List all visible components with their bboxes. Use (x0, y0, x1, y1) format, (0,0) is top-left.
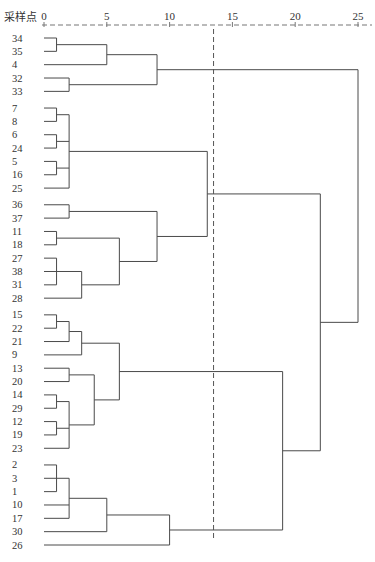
axis-title: 采样点 (4, 10, 37, 23)
leaf-label: 31 (12, 279, 23, 290)
leaf-label: 27 (12, 253, 23, 264)
leaf-label: 35 (12, 46, 23, 57)
leaf-label: 21 (12, 336, 23, 347)
leaf-label: 22 (12, 323, 23, 334)
x-tick-label: 20 (290, 10, 302, 22)
leaf-label: 9 (12, 349, 17, 360)
leaf-label: 30 (12, 526, 23, 537)
leaf-label: 36 (12, 199, 23, 210)
dendrogram-chart: 采样点0510152025343543233786245162536371118… (0, 0, 375, 562)
leaf-label: 15 (12, 309, 23, 320)
leaf-label: 2 (12, 459, 17, 470)
leaf-label: 10 (12, 499, 23, 510)
leaf-label: 32 (12, 73, 23, 84)
x-axis: 0510152025 (41, 10, 372, 27)
leaf-label: 34 (12, 33, 23, 44)
leaf-label: 3 (12, 473, 17, 484)
leaf-label: 38 (12, 266, 23, 277)
leaf-label: 17 (12, 513, 23, 524)
x-tick-label: 10 (164, 10, 176, 22)
leaf-label: 20 (12, 376, 23, 387)
leaf-label: 14 (12, 389, 23, 400)
leaf-label: 37 (12, 213, 23, 224)
leaf-label: 4 (12, 59, 18, 70)
dendrogram-svg: 采样点0510152025343543233786245162536371118… (0, 0, 375, 562)
leaf-label: 13 (12, 363, 23, 374)
leaf-label: 25 (12, 183, 23, 194)
dendrogram-links (44, 38, 358, 545)
leaf-label: 24 (12, 143, 23, 154)
leaf-label: 19 (12, 429, 23, 440)
leaf-label: 33 (12, 86, 23, 97)
leaf-label: 23 (12, 443, 23, 454)
x-tick-label: 15 (227, 10, 239, 22)
leaf-label: 26 (12, 540, 23, 551)
leaf-label: 1 (12, 486, 17, 497)
leaf-label: 16 (12, 169, 23, 180)
leaf-label: 6 (12, 129, 17, 140)
leaf-label: 5 (12, 156, 17, 167)
leaf-label: 11 (12, 226, 22, 237)
x-tick-label: 25 (353, 10, 365, 22)
x-tick-label: 5 (104, 10, 110, 22)
leaf-label: 7 (12, 103, 17, 114)
leaf-labels: 3435432337862451625363711182738312815222… (12, 33, 23, 551)
x-tick-label: 0 (41, 10, 47, 22)
leaf-label: 12 (12, 416, 23, 427)
leaf-label: 28 (12, 293, 23, 304)
leaf-label: 18 (12, 239, 23, 250)
leaf-label: 8 (12, 116, 17, 127)
leaf-label: 29 (12, 403, 23, 414)
